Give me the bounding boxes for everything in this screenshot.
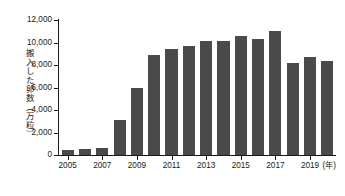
bar-2016 xyxy=(252,39,264,155)
x-axis-tick-label: 2017 xyxy=(266,162,284,170)
bar-2010 xyxy=(148,55,160,155)
y-axis-tick-label: 2,000 xyxy=(6,129,52,137)
bar-chart: 搬入した卵数（万粒） 02,0004,0006,0008,00010,00012… xyxy=(0,0,345,196)
x-axis-tick-label: 2009 xyxy=(128,162,146,170)
bar-2009 xyxy=(131,88,143,155)
x-axis-unit-label: (年) xyxy=(323,162,336,170)
bar-2020 xyxy=(321,61,333,155)
bar-2015 xyxy=(235,36,247,155)
x-axis-tick xyxy=(241,156,242,160)
bar-2012 xyxy=(183,46,195,155)
y-axis-tick-label: 12,000 xyxy=(6,16,52,24)
x-axis-tick xyxy=(310,156,311,160)
y-axis-tick-label: 6,000 xyxy=(6,84,52,92)
bar-2005 xyxy=(62,150,74,155)
x-axis-tick-label: 2011 xyxy=(163,162,181,170)
x-axis-tick-label: 2013 xyxy=(197,162,215,170)
bar-2011 xyxy=(165,49,177,155)
x-axis-tick-label: 2007 xyxy=(93,162,111,170)
bar-2006 xyxy=(79,149,91,155)
bar-2008 xyxy=(114,120,126,155)
y-axis-tick-label: 8,000 xyxy=(6,61,52,69)
x-axis-tick-label: 2005 xyxy=(59,162,77,170)
x-axis-tick xyxy=(102,156,103,160)
x-axis-line xyxy=(58,155,336,156)
y-axis-tick-label: 0 xyxy=(6,151,52,159)
x-axis-tick-label: 2019 xyxy=(301,162,319,170)
bar-2007 xyxy=(96,148,108,155)
y-axis-tick-label: 10,000 xyxy=(6,39,52,47)
x-axis-tick xyxy=(137,156,138,160)
x-axis-tick xyxy=(68,156,69,160)
y-axis-tick xyxy=(54,155,59,156)
bar-2019 xyxy=(304,57,316,155)
x-axis-tick xyxy=(172,156,173,160)
bar-2014 xyxy=(217,41,229,155)
y-axis-title: 搬入した卵数（万粒） xyxy=(18,28,33,160)
x-axis-tick-label: 2015 xyxy=(232,162,250,170)
x-axis-tick xyxy=(206,156,207,160)
bars-layer xyxy=(59,18,336,155)
bar-2018 xyxy=(287,63,299,155)
bar-2017 xyxy=(269,31,281,155)
x-axis-tick xyxy=(275,156,276,160)
bar-2013 xyxy=(200,41,212,155)
y-axis-tick-label: 4,000 xyxy=(6,106,52,114)
